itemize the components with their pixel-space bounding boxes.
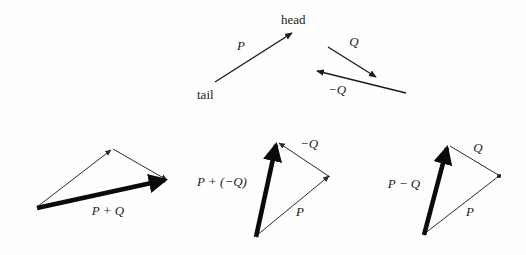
panel2-neg-q-label: −Q (300, 136, 319, 151)
vector-diagram-figure: P tail head Q −Q P + Q P + (−Q) −Q (0, 0, 526, 255)
vector-neg-q-label: −Q (328, 82, 347, 97)
vector-q-label: Q (349, 34, 359, 49)
vector-p-label: P (236, 38, 245, 53)
vector-diagram-canvas: P tail head Q −Q P + Q P + (−Q) −Q (0, 0, 526, 255)
panel2-p-label: P (295, 204, 304, 219)
vector-p-tail-label: tail (197, 87, 214, 102)
panel2-resultant-label: P + (−Q) (196, 174, 247, 189)
panel3-resultant-label: P − Q (387, 176, 421, 191)
vector-p-head-label: head (281, 12, 306, 27)
panel3-q-label: Q (473, 140, 483, 155)
panel1-resultant-label: P + Q (91, 203, 125, 218)
panel3-p-label: P (465, 204, 474, 219)
